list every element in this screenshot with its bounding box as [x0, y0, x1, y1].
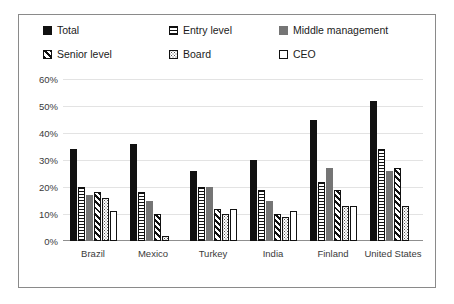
bar-india-board[interactable] — [282, 217, 289, 241]
x-axis-label-brazil: Brazil — [63, 248, 123, 259]
bar-india-entry-level[interactable] — [258, 190, 265, 241]
legend-item-middle-management[interactable]: Middle management — [279, 25, 388, 36]
y-axis-tick-label: 0% — [44, 236, 58, 247]
legend-label-board: Board — [183, 49, 211, 60]
bar-turkey-ceo[interactable] — [230, 209, 237, 241]
legend-swatch-middle-management-icon — [279, 26, 288, 35]
y-axis-tick-label: 30% — [39, 155, 58, 166]
bar-turkey-middle-management[interactable] — [206, 187, 213, 241]
legend-label-entry-level: Entry level — [183, 25, 232, 36]
plot-area: 60%50%40%30%20%10%0% BrazilMexicoTurkeyI… — [63, 79, 423, 241]
bar-mexico-middle-management[interactable] — [146, 201, 153, 242]
bar-finland-board[interactable] — [342, 206, 349, 241]
bar-group-india: India — [243, 79, 303, 241]
legend-swatch-entry-level-icon — [169, 26, 178, 35]
legend-item-senior-level[interactable]: Senior level — [43, 49, 112, 60]
bars-row — [243, 79, 303, 241]
legend-swatch-ceo-icon — [279, 50, 288, 59]
x-axis-label-finland: Finland — [303, 248, 363, 259]
bar-group-brazil: Brazil — [63, 79, 123, 241]
bar-mexico-senior-level[interactable] — [154, 214, 161, 241]
legend-item-entry-level[interactable]: Entry level — [169, 25, 232, 36]
legend-swatch-senior-level-icon — [43, 50, 52, 59]
legend-swatch-board-icon — [169, 50, 178, 59]
bar-brazil-middle-management[interactable] — [86, 195, 93, 241]
legend-item-board[interactable]: Board — [169, 49, 211, 60]
legend-item-total[interactable]: Total — [43, 25, 79, 36]
bar-mexico-board[interactable] — [162, 236, 169, 241]
y-axis-tick-label: 10% — [39, 209, 58, 220]
bar-finland-ceo[interactable] — [350, 206, 357, 241]
bar-turkey-board[interactable] — [222, 214, 229, 241]
bar-group-united-states: United States — [363, 79, 423, 241]
y-axis-tick-label: 50% — [39, 101, 58, 112]
chart-frame: Total Entry level Middle management Seni… — [18, 14, 436, 288]
bar-india-total[interactable] — [250, 160, 257, 241]
bar-brazil-senior-level[interactable] — [94, 192, 101, 241]
legend-label-ceo: CEO — [293, 49, 316, 60]
bar-turkey-senior-level[interactable] — [214, 209, 221, 241]
bar-brazil-total[interactable] — [70, 149, 77, 241]
bars-row — [183, 79, 243, 241]
bar-finland-entry-level[interactable] — [318, 182, 325, 241]
legend-item-ceo[interactable]: CEO — [279, 49, 316, 60]
bar-turkey-entry-level[interactable] — [198, 187, 205, 241]
bar-brazil-entry-level[interactable] — [78, 187, 85, 241]
legend-label-total: Total — [57, 25, 79, 36]
bar-mexico-entry-level[interactable] — [138, 192, 145, 241]
y-axis-tick-label: 60% — [39, 74, 58, 85]
x-axis-label-united-states: United States — [363, 248, 423, 259]
bar-group-finland: Finland — [303, 79, 363, 241]
bar-united-states-middle-management[interactable] — [386, 171, 393, 241]
bar-united-states-total[interactable] — [370, 101, 377, 241]
bar-finland-middle-management[interactable] — [326, 168, 333, 241]
bar-mexico-total[interactable] — [130, 144, 137, 241]
legend-label-senior-level: Senior level — [57, 49, 112, 60]
bar-group-turkey: Turkey — [183, 79, 243, 241]
legend-swatch-total-icon — [43, 26, 52, 35]
bars-row — [363, 79, 423, 241]
bars-row — [123, 79, 183, 241]
y-axis-tick-label: 40% — [39, 128, 58, 139]
bar-united-states-senior-level[interactable] — [394, 168, 401, 241]
bar-turkey-total[interactable] — [190, 171, 197, 241]
bar-india-senior-level[interactable] — [274, 214, 281, 241]
x-axis-label-turkey: Turkey — [183, 248, 243, 259]
bar-india-middle-management[interactable] — [266, 201, 273, 242]
y-axis-tick-label: 20% — [39, 182, 58, 193]
bar-finland-senior-level[interactable] — [334, 190, 341, 241]
bar-united-states-entry-level[interactable] — [378, 149, 385, 241]
x-axis-label-india: India — [243, 248, 303, 259]
bar-brazil-ceo[interactable] — [110, 211, 117, 241]
bar-brazil-board[interactable] — [102, 198, 109, 241]
bar-india-ceo[interactable] — [290, 211, 297, 241]
bars-row — [303, 79, 363, 241]
bar-finland-total[interactable] — [310, 120, 317, 242]
x-axis-label-mexico: Mexico — [123, 248, 183, 259]
bars-row — [63, 79, 123, 241]
bar-group-mexico: Mexico — [123, 79, 183, 241]
legend-label-middle-management: Middle management — [293, 25, 388, 36]
chart-legend: Total Entry level Middle management Seni… — [31, 25, 425, 73]
bar-united-states-board[interactable] — [402, 206, 409, 241]
